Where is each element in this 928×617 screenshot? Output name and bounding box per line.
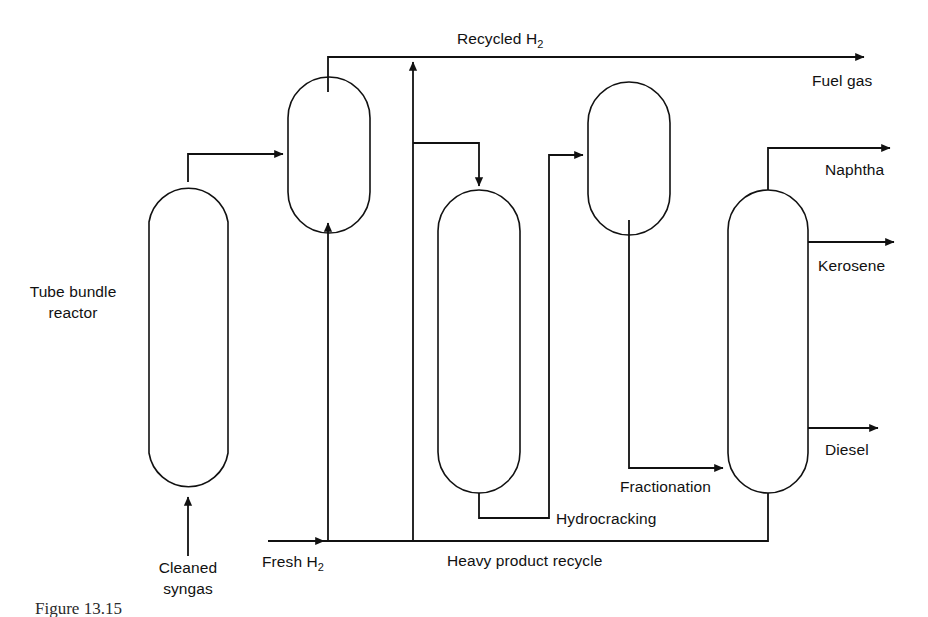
label-heavy-product-recycle: Heavy product recycle xyxy=(447,552,602,569)
label-fuel-gas: Fuel gas xyxy=(812,72,872,89)
figure-caption: Figure 13.15 xyxy=(35,599,122,617)
equipment-separator-vessel[interactable] xyxy=(288,77,370,233)
label-naphtha: Naphtha xyxy=(825,161,885,178)
label-kerosene: Kerosene xyxy=(818,257,885,274)
equipment-hydrocracker-separator[interactable] xyxy=(588,82,670,235)
label-tube-bundle-reactor-line1: Tube bundle xyxy=(30,283,117,300)
label-hydrocracking: Hydrocracking xyxy=(556,510,656,527)
pfd-canvas: Tube bundle reactor Cleaned syngas Fresh… xyxy=(0,0,928,617)
label-diesel: Diesel xyxy=(825,441,869,458)
label-recycled-h2: Recycled H2 xyxy=(457,30,543,50)
stream-reactor-to-separator[interactable] xyxy=(188,154,283,182)
stream-separator-liquid-to-hydrocracker[interactable] xyxy=(413,143,479,186)
process-flow-diagram: Tube bundle reactor Cleaned syngas Fresh… xyxy=(0,0,928,617)
equipment-tube-bundle-reactor[interactable] xyxy=(149,188,228,486)
equipment-fractionation-column[interactable] xyxy=(728,190,808,493)
label-cleaned-syngas-line1: Cleaned xyxy=(159,559,217,576)
label-tube-bundle-reactor-line2: reactor xyxy=(49,304,98,321)
label-fresh-h2: Fresh H2 xyxy=(262,553,324,573)
stream-heavy-product-recycle[interactable] xyxy=(268,493,768,541)
equipment-hydrocracking-reactor[interactable] xyxy=(438,190,520,493)
stream-separator2-to-fractionation[interactable] xyxy=(629,220,723,468)
label-cleaned-syngas-line2: syngas xyxy=(163,580,213,597)
stream-recycled-h2-overhead[interactable] xyxy=(328,57,864,92)
label-fractionation: Fractionation xyxy=(620,478,711,495)
